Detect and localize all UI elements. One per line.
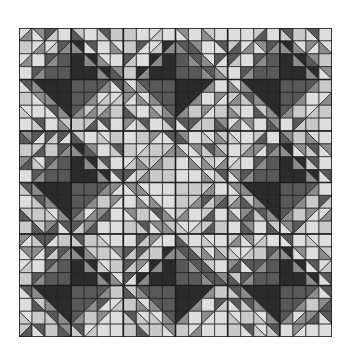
quilt-image: [19, 28, 332, 337]
quilt-svg: [19, 28, 332, 337]
